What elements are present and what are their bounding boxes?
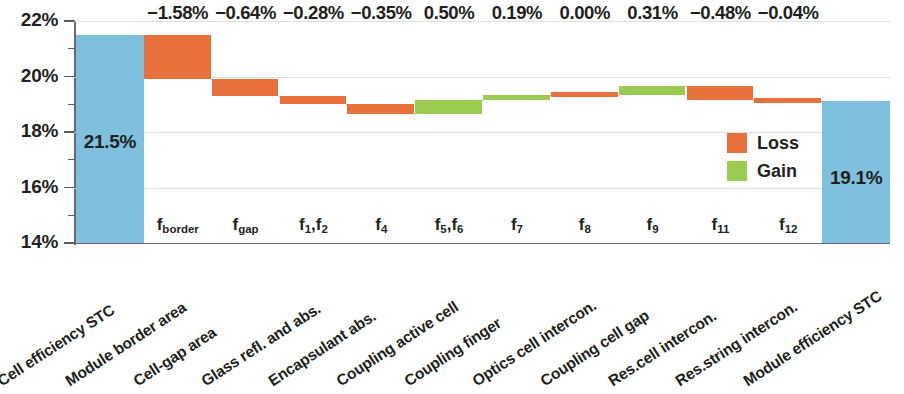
y-tick-major bbox=[64, 242, 75, 244]
gridline bbox=[74, 188, 890, 189]
waterfall-connector bbox=[414, 114, 415, 115]
legend-swatch bbox=[727, 161, 747, 181]
legend: LossGain bbox=[727, 131, 799, 187]
y-axis-tick-label: 20% bbox=[0, 65, 58, 87]
loss-bar bbox=[347, 104, 414, 114]
loss-bar bbox=[687, 86, 754, 99]
y-axis-tick-label: 14% bbox=[0, 231, 58, 253]
legend-swatch bbox=[727, 133, 747, 153]
category-label: Res.string intercon. bbox=[673, 298, 802, 390]
gain-bar bbox=[415, 100, 482, 114]
bar-value-label: 19.1% bbox=[812, 167, 900, 189]
loss-bar bbox=[551, 92, 618, 97]
delta-value-label: −0.04% bbox=[746, 2, 830, 24]
loss-bar bbox=[754, 98, 821, 103]
category-label: Glass refl. and abs. bbox=[198, 300, 324, 390]
category-label: Coupling active cell bbox=[333, 298, 462, 390]
y-axis-tick-label: 18% bbox=[0, 120, 58, 142]
waterfall-connector bbox=[482, 100, 483, 101]
waterfall-chart: 14%16%18%20%22% 21.5%19.1% −1.58%−0.64%−… bbox=[0, 0, 904, 394]
legend-item: Loss bbox=[727, 131, 799, 155]
y-tick-minor bbox=[68, 48, 75, 49]
y-axis-tick-label: 22% bbox=[0, 9, 58, 31]
x-axis-line bbox=[74, 243, 890, 244]
y-tick-minor bbox=[68, 215, 75, 216]
y-axis-tick-label: 16% bbox=[0, 176, 58, 198]
category-label: Cell efficiency STC bbox=[0, 301, 118, 390]
loss-bar bbox=[144, 35, 211, 79]
factor-label: f12 bbox=[748, 215, 828, 235]
waterfall-connector bbox=[618, 95, 619, 96]
y-tick-minor bbox=[68, 159, 75, 160]
bar-value-label: 21.5% bbox=[66, 131, 154, 153]
loss-bar bbox=[280, 96, 347, 104]
y-tick-minor bbox=[68, 104, 75, 105]
gain-bar bbox=[483, 95, 550, 100]
gain-bar bbox=[619, 86, 686, 95]
category-label: Module border area bbox=[62, 299, 189, 390]
legend-label: Gain bbox=[757, 161, 797, 182]
legend-label: Loss bbox=[757, 133, 799, 154]
waterfall-connector bbox=[821, 101, 822, 102]
category-label: Module efficiency STC bbox=[740, 287, 885, 390]
legend-item: Gain bbox=[727, 159, 799, 183]
category-label: Optics cell intercon. bbox=[469, 297, 600, 390]
loss-bar bbox=[212, 79, 279, 97]
